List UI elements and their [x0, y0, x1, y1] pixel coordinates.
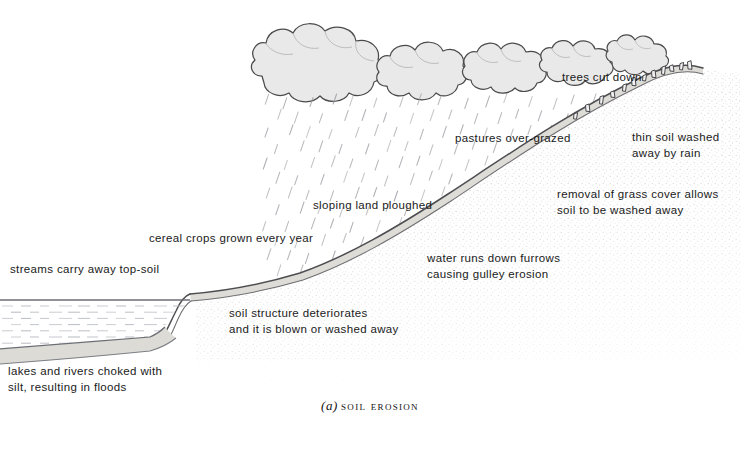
annotation-soil-structure-deteriorates: soil structure deteriorates and it is bl… [229, 306, 399, 337]
hillside-stipple-texture [180, 60, 740, 400]
annotation-water-runs-down-furrows: water runs down furrows causing gulley e… [427, 251, 560, 282]
cloud-small-far-right [606, 35, 668, 75]
silt-deposit-layer [0, 327, 176, 364]
figure-caption: (a)soil erosion [0, 398, 740, 414]
soil-erosion-figure: trees cut down thin soil washed away by … [0, 0, 740, 465]
rain-cloud-group [251, 24, 668, 102]
annotation-trees-cut-down: trees cut down [562, 70, 642, 86]
cloud-medium-right [463, 43, 547, 93]
caption-title: soil erosion [338, 398, 419, 413]
annotation-sloping-land-ploughed: sloping land ploughed [313, 198, 432, 214]
annotation-lakes-and-rivers-choked-with-silt: lakes and rivers choked with silt, resul… [8, 364, 162, 395]
annotation-cereal-crops-grown-every-year: cereal crops grown every year [149, 231, 313, 247]
annotation-removal-of-grass-cover: removal of grass cover allows soil to be… [557, 187, 719, 218]
annotation-pastures-over-grazed: pastures over-grazed [455, 131, 571, 147]
cloud-medium-centre [377, 42, 467, 100]
caption-letter: (a) [321, 398, 338, 413]
cloud-large-left [251, 24, 382, 102]
annotation-streams-carry-away-top-soil: streams carry away top-soil [10, 262, 159, 278]
annotation-thin-soil-washed-away: thin soil washed away by rain [632, 130, 719, 161]
